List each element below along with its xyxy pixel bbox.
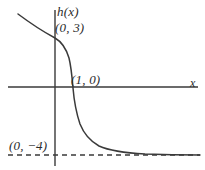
function-graph-figure: h(x) (0, 3) (1, 0) (0, −4) x [0, 0, 205, 170]
x-intercept-label: (1, 0) [71, 73, 100, 86]
asymptote-label: (0, −4) [9, 139, 47, 152]
h-curve [18, 14, 200, 155]
x-axis-label: x [190, 77, 196, 89]
function-name-label: h(x) [57, 5, 79, 18]
y-intercept-label: (0, 3) [55, 21, 84, 34]
